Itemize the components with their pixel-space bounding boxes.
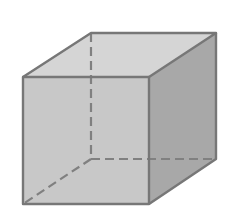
cube-front-face — [23, 77, 149, 204]
cube-diagram — [0, 0, 228, 212]
